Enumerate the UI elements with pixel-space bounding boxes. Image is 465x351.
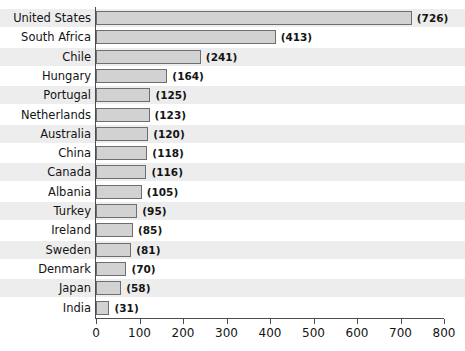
- value-label: (85): [138, 221, 162, 239]
- bar-row: Ireland(85): [0, 221, 465, 239]
- bar-row: Turkey(95): [0, 202, 465, 220]
- x-tick: [96, 319, 97, 324]
- category-label: Albania: [0, 183, 91, 201]
- category-label: Australia: [0, 125, 91, 143]
- value-label: (164): [172, 67, 204, 85]
- bar: [96, 301, 109, 315]
- bar: [96, 11, 412, 25]
- category-label: Sweden: [0, 241, 91, 259]
- value-label: (95): [142, 202, 166, 220]
- bar-row: Denmark(70): [0, 260, 465, 278]
- category-label: Portugal: [0, 86, 91, 104]
- bar-row: Chile(241): [0, 48, 465, 66]
- x-tick: [357, 319, 358, 324]
- category-label: Hungary: [0, 67, 91, 85]
- bar-row: United States(726): [0, 9, 465, 27]
- bar: [96, 281, 121, 295]
- category-label: United States: [0, 9, 91, 27]
- bar: [96, 262, 126, 276]
- bar-row: Sweden(81): [0, 241, 465, 259]
- category-label: India: [0, 299, 91, 317]
- bar: [96, 204, 137, 218]
- bar-chart: United States(726)South Africa(413)Chile…: [0, 0, 465, 351]
- x-tick: [227, 319, 228, 324]
- bar-row: Japan(58): [0, 279, 465, 297]
- bar-row: Hungary(164): [0, 67, 465, 85]
- bar-row: Albania(105): [0, 183, 465, 201]
- bar: [96, 108, 150, 122]
- value-label: (70): [131, 260, 155, 278]
- value-label: (241): [206, 48, 238, 66]
- x-tick: [270, 319, 271, 324]
- bar: [96, 223, 133, 237]
- value-label: (125): [155, 86, 187, 104]
- value-label: (413): [281, 28, 313, 46]
- value-label: (116): [151, 163, 183, 181]
- x-tick-label: 800: [414, 326, 465, 340]
- plot-area: United States(726)South Africa(413)Chile…: [0, 0, 465, 351]
- bar: [96, 50, 201, 64]
- category-label: South Africa: [0, 28, 91, 46]
- x-tick: [444, 319, 445, 324]
- bar-row: Portugal(125): [0, 86, 465, 104]
- bar-row: South Africa(413): [0, 28, 465, 46]
- value-label: (81): [136, 241, 160, 259]
- x-tick: [140, 319, 141, 324]
- category-label: Canada: [0, 163, 91, 181]
- value-label: (120): [153, 125, 185, 143]
- category-label: China: [0, 144, 91, 162]
- value-label: (726): [417, 9, 449, 27]
- value-label: (105): [147, 183, 179, 201]
- value-label: (123): [155, 106, 187, 124]
- category-label: Turkey: [0, 202, 91, 220]
- bar: [96, 243, 131, 257]
- bar-row: Canada(116): [0, 163, 465, 181]
- category-label: Chile: [0, 48, 91, 66]
- category-label: Denmark: [0, 260, 91, 278]
- bar-row: Australia(120): [0, 125, 465, 143]
- category-label: Netherlands: [0, 106, 91, 124]
- bar-row: India(31): [0, 299, 465, 317]
- bar: [96, 88, 150, 102]
- bar: [96, 30, 276, 44]
- x-tick: [401, 319, 402, 324]
- bar: [96, 127, 148, 141]
- bar-row: China(118): [0, 144, 465, 162]
- bar-row: Netherlands(123): [0, 106, 465, 124]
- category-label: Ireland: [0, 221, 91, 239]
- bar: [96, 165, 146, 179]
- y-axis-line: [95, 7, 96, 318]
- value-label: (58): [126, 279, 150, 297]
- value-label: (31): [114, 299, 138, 317]
- bar: [96, 69, 167, 83]
- bar: [96, 185, 142, 199]
- value-label: (118): [152, 144, 184, 162]
- x-tick: [183, 319, 184, 324]
- x-tick: [314, 319, 315, 324]
- category-label: Japan: [0, 279, 91, 297]
- bar: [96, 146, 147, 160]
